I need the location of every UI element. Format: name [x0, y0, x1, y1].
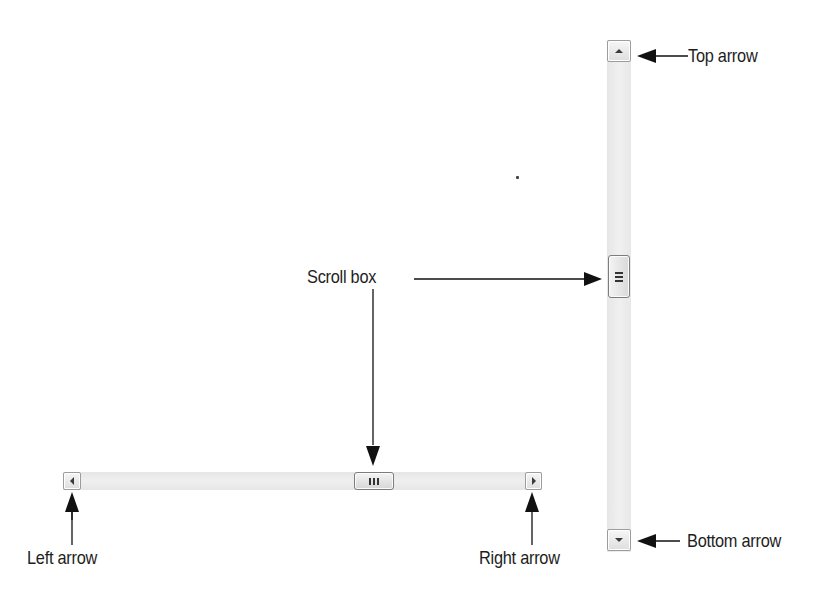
label-scroll-box: Scroll box	[307, 266, 376, 288]
stray-dot	[516, 176, 519, 179]
label-top-arrow: Top arrow	[688, 45, 757, 67]
label-right-arrow: Right arrow	[479, 547, 560, 569]
label-left-arrow: Left arrow	[27, 547, 97, 569]
callout-arrows	[0, 0, 838, 600]
label-bottom-arrow: Bottom arrow	[687, 530, 781, 552]
